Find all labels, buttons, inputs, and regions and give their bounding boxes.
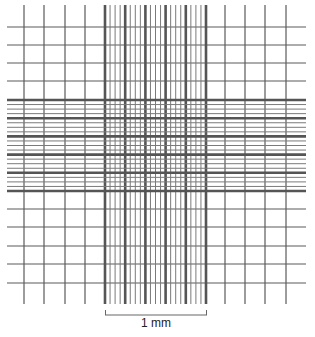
scale-bar-label: 1 mm	[105, 316, 207, 330]
hemocytometer-grid	[0, 0, 315, 337]
